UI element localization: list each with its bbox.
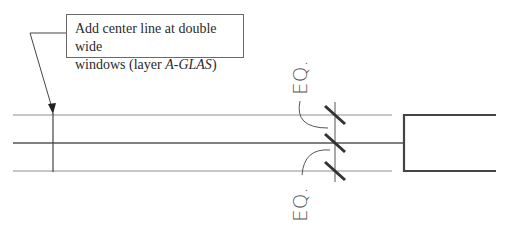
eq-label-upper: EQ. xyxy=(288,60,312,95)
layer-name: A-GLAS xyxy=(165,57,212,72)
wall-end xyxy=(404,115,496,171)
arrowhead-icon xyxy=(48,103,56,114)
callout-note: Add center line at double wide windows (… xyxy=(66,14,244,58)
leader-line xyxy=(30,33,66,108)
callout-line-2: windows (layer A-GLAS) xyxy=(75,56,235,74)
eq-label-lower: EQ. xyxy=(288,187,312,222)
callout-line-1: Add center line at double wide xyxy=(75,20,235,56)
